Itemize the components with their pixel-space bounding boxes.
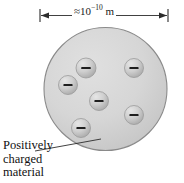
minus-sign-icon xyxy=(63,84,72,86)
dimension-unit: m xyxy=(103,5,114,17)
minus-sign-icon xyxy=(81,67,91,69)
electron-5 xyxy=(125,106,144,125)
dimension-label: ≈10−10 m xyxy=(72,6,116,17)
electron-2 xyxy=(76,58,96,78)
caption-line-1: Positively xyxy=(3,139,53,153)
atom-diagram-figure: ≈10−10 m Positively charged material xyxy=(0,0,184,183)
electron-1 xyxy=(59,76,78,95)
minus-sign-icon xyxy=(129,114,138,116)
electron-4 xyxy=(90,92,109,111)
caption-line-3: material xyxy=(3,166,53,180)
electron-3 xyxy=(125,59,144,78)
dimension-exponent: −10 xyxy=(91,3,103,12)
caption-block: Positively charged material xyxy=(3,139,53,180)
minus-sign-icon xyxy=(129,67,138,69)
arrowhead-left-icon xyxy=(41,13,49,19)
arrowhead-right-icon xyxy=(159,13,167,19)
electron-6 xyxy=(72,119,91,138)
caption-line-2: charged xyxy=(3,153,53,167)
minus-sign-icon xyxy=(76,127,85,129)
minus-sign-icon xyxy=(94,100,103,102)
dimension-mantissa: 10 xyxy=(80,5,91,17)
